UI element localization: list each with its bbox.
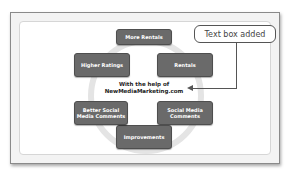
node-social-media-comments[interactable]: Social Media Comments (157, 101, 213, 125)
node-more-rentals[interactable]: More Rentals (116, 29, 172, 45)
node-label: Higher Ratings (81, 62, 123, 68)
node-better-social-media-comments[interactable]: Better Social Media Comments (74, 101, 128, 125)
node-rentals[interactable]: Rentals (157, 53, 213, 77)
arrow-left-icon (187, 85, 193, 91)
node-improvements[interactable]: Improvements (116, 125, 172, 149)
center-line-2: NewMediaMarketing.com (96, 88, 192, 95)
callout-connector-vertical (236, 42, 237, 88)
center-text[interactable]: With the help of NewMediaMarketing.com (96, 81, 192, 95)
node-higher-ratings[interactable]: Higher Ratings (74, 53, 130, 77)
node-label: Improvements (124, 134, 165, 140)
node-label: Social Media Comments (158, 107, 212, 119)
center-line-1: With the help of (96, 81, 192, 88)
node-label: Rentals (174, 62, 195, 68)
callout-connector-horizontal (192, 88, 237, 89)
callout-label: Text box added (205, 30, 266, 39)
callout-box: Text box added (194, 25, 276, 43)
node-label: More Rentals (125, 34, 162, 40)
node-label: Better Social Media Comments (75, 107, 127, 119)
